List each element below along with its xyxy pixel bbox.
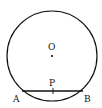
circle-chord-diagram: O P A B: [0, 0, 102, 108]
center-dot: [51, 55, 53, 57]
label-o: O: [48, 42, 55, 52]
label-a: A: [12, 94, 20, 104]
label-p: P: [49, 78, 55, 88]
label-b: B: [84, 94, 91, 104]
